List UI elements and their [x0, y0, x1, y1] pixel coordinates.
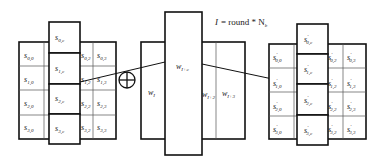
state-left-cell-1-c	[49, 53, 80, 84]
key-schedule-block: wI wI+c wI+2 wI+3	[141, 12, 245, 155]
state-left-cell-3-c	[49, 114, 80, 144]
state-matrix-right: s′0,0 s′1,0 s′2,0 s′3,0 s′0,c s′1,c s′2,…	[269, 24, 366, 145]
add-round-key-diagram: s0,0 s1,0 s2,0 s3,0 s0,c s1,c s2,c s3,c …	[0, 0, 382, 165]
state-right-cell-2-c	[297, 84, 328, 115]
state-left-cell-0-c	[49, 22, 80, 53]
state-left-cell-2-c	[49, 84, 80, 114]
state-matrix-left: s0,0 s1,0 s2,0 s3,0 s0,c s1,c s2,c s3,c …	[19, 22, 116, 144]
key-word-c-column	[165, 12, 202, 155]
state-right-cell-0-c	[297, 24, 328, 54]
state-right-cell-3-c	[297, 115, 328, 145]
state-right-cell-1-c	[297, 54, 328, 84]
round-index-formula: I= round * Nb	[214, 17, 268, 28]
xor-operator-icon	[119, 72, 135, 88]
